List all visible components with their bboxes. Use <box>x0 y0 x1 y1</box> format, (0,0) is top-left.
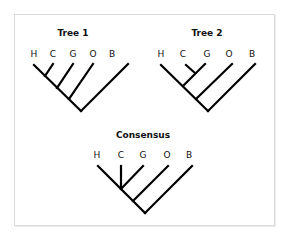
consensus-tree: Consensus H C G O B <box>94 130 192 213</box>
consensus-leaf-g: G <box>140 150 147 160</box>
phylogeny-diagram: Tree 1 H C G O B Tree 2 H C G O B Consen… <box>0 0 284 239</box>
tree-2-branches <box>161 64 255 111</box>
tree-1-leaf-h: H <box>31 49 38 59</box>
tree-2-leaf-c: C <box>180 49 186 59</box>
tree-1-leaf-g: G <box>70 49 77 59</box>
tree-2-leaf-h: H <box>158 49 165 59</box>
tree-2-leaf-o: O <box>225 49 232 59</box>
consensus-title: Consensus <box>116 130 170 140</box>
consensus-leaf-c: C <box>118 150 124 160</box>
tree-2-leaf-b: B <box>249 49 255 59</box>
consensus-leaf-h: H <box>94 150 101 160</box>
tree-1-branches <box>34 64 128 111</box>
tree-1-leaf-o: O <box>89 49 96 59</box>
tree-1: Tree 1 H C G O B <box>31 28 128 111</box>
consensus-leaf-b: B <box>186 150 192 160</box>
tree-2-title: Tree 2 <box>191 28 222 38</box>
tree-2: Tree 2 H C G O B <box>158 28 255 111</box>
consensus-leaf-o: O <box>163 150 170 160</box>
tree-1-leaf-c: C <box>50 49 56 59</box>
consensus-branches <box>98 166 192 213</box>
tree-1-title: Tree 1 <box>57 28 88 38</box>
tree-1-leaf-b: B <box>109 49 115 59</box>
tree-2-leaf-g: G <box>204 49 211 59</box>
